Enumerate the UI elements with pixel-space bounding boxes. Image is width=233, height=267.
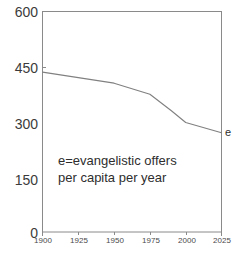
plot-frame (43, 12, 222, 233)
x-tick-label-1900: 1900 (28, 236, 58, 245)
series-end-label-e: e (225, 127, 231, 138)
x-tick-label-1975: 1975 (136, 236, 166, 245)
annotation-line-1: e=evangelistic offers (58, 152, 177, 169)
x-tick-label-2025: 2025 (207, 236, 233, 245)
chart-container: 600 450 300 150 0 1900 1925 1950 1975 20… (0, 0, 233, 267)
chart-plot-svg (0, 0, 233, 267)
x-tick-label-1950: 1950 (100, 236, 130, 245)
chart-annotation-note: e=evangelistic offers per capita per yea… (58, 152, 177, 186)
x-axis-tick-labels: 1900 1925 1950 1975 2000 2025 (0, 236, 233, 250)
annotation-line-2: per capita per year (58, 169, 177, 186)
x-tick-label-1925: 1925 (64, 236, 94, 245)
x-tick-label-2000: 2000 (172, 236, 202, 245)
